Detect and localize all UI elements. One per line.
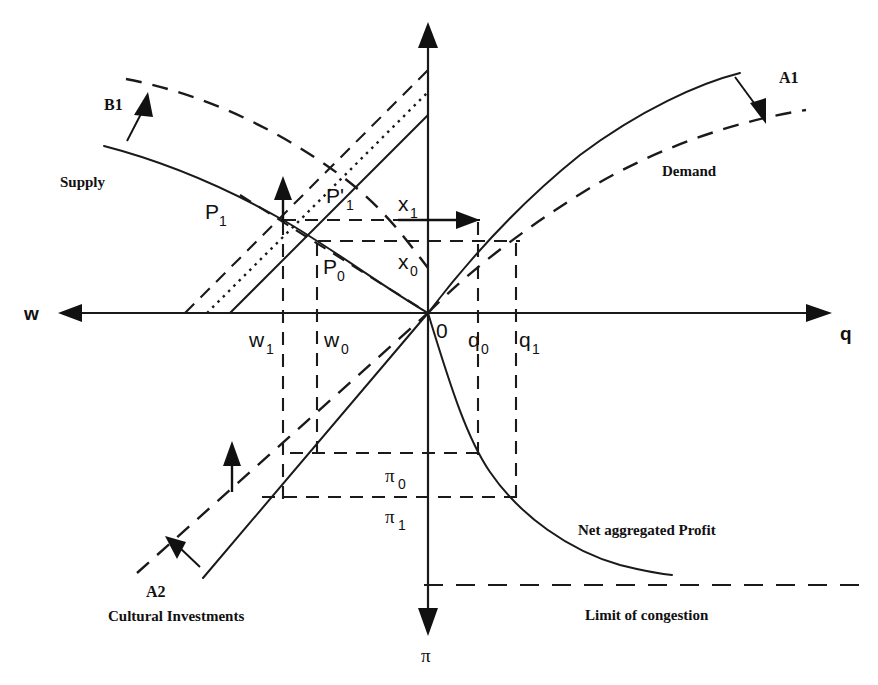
p1-label: P 1 (205, 200, 227, 229)
origin-label: 0 (436, 319, 448, 342)
transfer-line-dotted (207, 92, 428, 313)
pi0-label-sub: 0 (398, 476, 406, 492)
cultural-investments-line (203, 313, 428, 578)
q1-label-main: q (519, 328, 531, 351)
p1-label-main: P (205, 200, 219, 223)
q-axis-label: q (840, 323, 852, 344)
cultural-shift-arrow-head (223, 441, 241, 466)
pi1-tick-label: π 1 (385, 506, 406, 533)
demand-label: Demand (662, 163, 717, 179)
x0-tick-label: x 0 (398, 250, 418, 279)
x0-label-sub: 0 (410, 263, 418, 279)
w1-tick-label: w 1 (248, 328, 274, 357)
x1-tick-label: x 1 (398, 192, 418, 221)
x1-label-sub: 1 (410, 205, 418, 221)
net-profit-quadrant (424, 313, 872, 585)
p1-prime-label-main: P' (326, 184, 344, 207)
b1-shift-label: B1 (104, 96, 123, 113)
transfer-line-dashed-outer (185, 70, 428, 313)
demand-quadrant (428, 73, 806, 313)
x1-label-main: x (398, 192, 409, 215)
p1-label-sub: 1 (219, 213, 227, 229)
w0-tick-label: w 0 (323, 328, 349, 357)
w1-label-sub: 1 (266, 341, 274, 357)
supply-shift-arrow-head (274, 176, 292, 200)
w0-label-main: w (323, 328, 340, 351)
pi0-label-main: π (385, 465, 395, 486)
q0-label-sub: 0 (481, 341, 489, 357)
net-profit-label: Net aggregated Profit (578, 522, 716, 538)
transfer-lines-group (185, 70, 428, 313)
a1-shift-label: A1 (779, 69, 799, 86)
pi-axis-label: π (421, 645, 431, 666)
demand-curve-shifted (428, 110, 806, 313)
q-axis-arrowhead (806, 304, 832, 322)
p0-label-main: P (323, 255, 337, 278)
x0-label-main: x (398, 250, 409, 273)
figure-canvas: w q π 0 Supply Demand Net aggregated Pro… (0, 0, 878, 685)
q0-label-main: q (468, 328, 480, 351)
supply-curve (104, 146, 428, 313)
q0-tick-label: q 0 (468, 328, 489, 357)
q1-tick-label: q 1 (519, 328, 540, 357)
cultural-investments-label: Cultural Investments (108, 608, 244, 624)
w0-label-sub: 0 (341, 341, 349, 357)
b1-pointer-head (134, 92, 153, 117)
pi1-label-sub: 1 (398, 517, 406, 533)
supply-label: Supply (60, 174, 106, 190)
pi1-label-main: π (385, 506, 395, 527)
p1-prime-label: P' 1 (326, 184, 354, 213)
input-shift-arrow-head (456, 211, 480, 229)
vertical-axis-top-arrowhead (418, 22, 438, 48)
q1-label-sub: 1 (532, 341, 540, 357)
pi-axis-arrowhead (418, 608, 438, 636)
w1-label-main: w (248, 328, 265, 351)
a2-pointer-head (165, 536, 186, 559)
p0-label-sub: 0 (337, 268, 345, 284)
limit-of-congestion-label: Limit of congestion (585, 607, 709, 623)
pi0-tick-label: π 0 (385, 465, 406, 492)
economics-diagram: w q π 0 Supply Demand Net aggregated Pro… (0, 0, 878, 685)
w-axis-label: w (23, 303, 39, 324)
supply-curve-shifted (126, 79, 428, 268)
w-axis-arrowhead (58, 304, 82, 322)
a2-shift-label: A2 (146, 583, 166, 600)
p1-prime-label-sub: 1 (346, 197, 354, 213)
a2-pointer-shaft (180, 548, 200, 567)
